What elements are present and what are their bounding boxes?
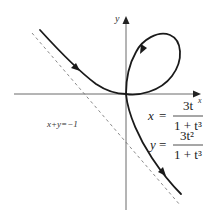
y-axis-label: y [114, 13, 120, 24]
direction-arrow-icon [140, 44, 147, 54]
x-eq-numerator: 3t [183, 98, 194, 113]
folium-diagram: y x x+y=−1 x = 3t 1 + t³ y = 3t² 1 + t³ [0, 0, 212, 219]
y-eq-sign: = [159, 137, 166, 152]
x-eq-lhs: x [147, 108, 154, 123]
curve-left-branch [40, 30, 126, 94]
x-axis-label: x [197, 96, 202, 105]
y-eq-lhs: y [148, 137, 156, 152]
x-equation: x = 3t 1 + t³ [147, 98, 203, 133]
y-axis-arrow-icon [123, 16, 130, 24]
y-equation: y = 3t² 1 + t³ [148, 128, 203, 162]
asymptote-label: x+y=−1 [46, 119, 78, 129]
curve-loop [126, 34, 180, 95]
y-eq-numerator: 3t² [180, 128, 194, 143]
x-eq-sign: = [159, 108, 166, 123]
y-eq-denominator: 1 + t³ [174, 147, 202, 162]
